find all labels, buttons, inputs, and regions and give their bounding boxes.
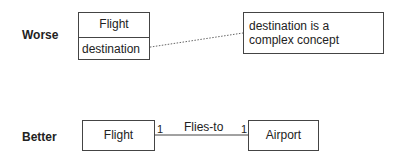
row-label-better: Better [22, 130, 57, 144]
left-multiplicity: 1 [157, 123, 163, 135]
association-name: Flies-to [184, 120, 223, 134]
flight-class-box-better: Flight [82, 120, 155, 151]
note-anchor-line [144, 33, 243, 48]
class-name: Flight [79, 13, 149, 38]
row-label-worse: Worse [22, 28, 58, 42]
flight-class-box: Flight destination [78, 12, 150, 60]
airport-class-box: Airport [248, 120, 319, 151]
note-text: destination is a complex concept [244, 13, 383, 47]
note-box: destination is a complex concept [243, 12, 384, 54]
right-multiplicity: 1 [241, 123, 247, 135]
class-attribute: destination [79, 38, 149, 60]
